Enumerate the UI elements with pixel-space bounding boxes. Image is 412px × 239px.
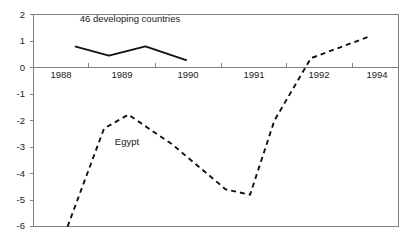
plot-frame: [34, 15, 399, 227]
x-axis-labels: 1988 1989 1990 1991 1992 1994: [50, 69, 387, 80]
x-axis-tick-label: 1990: [177, 69, 198, 80]
x-axis-ticks: [89, 63, 353, 68]
x-axis-tick-label: 1988: [50, 69, 71, 80]
x-axis-tick-label: 1989: [111, 69, 132, 80]
line-chart: 2 1 0 -1 -2 -3 -4 -5 -6 1988 1989 1990 1…: [0, 0, 412, 239]
y-axis-tick-label: 2: [20, 9, 25, 20]
y-axis-tick-label: -1: [17, 88, 25, 99]
y-axis-ticks: [30, 15, 34, 227]
x-axis-tick-label: 1994: [366, 69, 387, 80]
y-axis-labels: 2 1 0 -1 -2 -3 -4 -5 -6: [17, 9, 25, 231]
series-annotation-egypt: Egypt: [115, 136, 140, 147]
y-axis-tick-label: -2: [17, 115, 25, 126]
y-axis-tick-label: 1: [20, 35, 25, 46]
y-axis-tick-label: -4: [17, 168, 25, 179]
y-axis-tick-label: -6: [17, 220, 25, 231]
x-axis-tick-label: 1992: [308, 69, 329, 80]
series-line-egypt: [68, 37, 370, 227]
frame-border: [34, 15, 399, 227]
y-axis-tick-label: -3: [17, 141, 25, 152]
y-axis-tick-label: -5: [17, 194, 25, 205]
y-axis-tick-label: 0: [20, 62, 25, 73]
series-annotation-developing-countries: 46 developing countries: [80, 13, 181, 24]
series-line-developing-countries: [75, 46, 187, 60]
x-axis-tick-label: 1991: [243, 69, 264, 80]
chart-figure: 2 1 0 -1 -2 -3 -4 -5 -6 1988 1989 1990 1…: [0, 0, 412, 239]
